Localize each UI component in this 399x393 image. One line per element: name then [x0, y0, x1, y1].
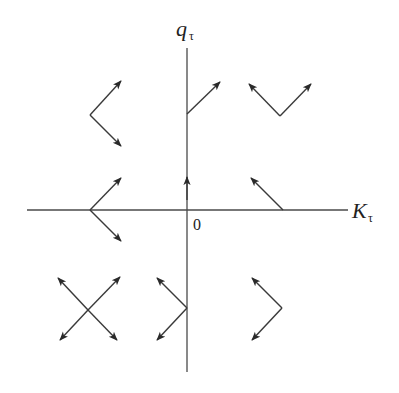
- arrow-icon: [90, 81, 121, 115]
- arrow-icon: [251, 178, 283, 210]
- arrow-icon: [90, 178, 121, 210]
- phase-diagram: q τ K τ 0: [0, 0, 399, 393]
- vector-group-lower-left: [58, 277, 120, 340]
- vector-group-lower-right: [252, 278, 282, 340]
- x-axis-label: K: [351, 198, 368, 223]
- arrow-icon: [60, 310, 88, 340]
- arrow-icon: [58, 278, 88, 310]
- arrow-icon: [187, 82, 220, 114]
- arrow-icon: [252, 308, 282, 340]
- arrow-icon: [252, 278, 282, 308]
- arrow-icon: [157, 278, 187, 308]
- vector-group-upper-left: [90, 81, 121, 146]
- x-axis-subscript: τ: [368, 211, 373, 225]
- vector-group-upper-right: [249, 84, 311, 116]
- arrow-icon: [90, 115, 121, 146]
- y-axis-subscript: τ: [189, 29, 194, 43]
- vector-group-middle-right: [251, 178, 283, 210]
- arrow-icon: [157, 308, 187, 340]
- arrow-icon: [90, 210, 121, 241]
- vector-group-lower-center: [157, 278, 187, 340]
- y-axis-label: q: [176, 16, 187, 41]
- origin-label: 0: [193, 216, 201, 233]
- arrow-icon: [88, 277, 120, 310]
- vector-group-upper-center: [187, 82, 220, 114]
- arrow-icon: [249, 84, 280, 116]
- arrow-icon: [280, 84, 311, 116]
- arrow-icon: [88, 310, 117, 340]
